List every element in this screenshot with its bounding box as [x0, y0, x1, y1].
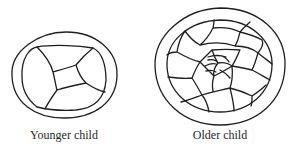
drawings-figure [0, 0, 292, 149]
younger-child-caption: Younger child [4, 128, 124, 143]
younger-cell-lines [37, 47, 105, 109]
younger-inner-ring [22, 45, 106, 110]
older-outer-ring [155, 8, 285, 125]
figure-canvas: Younger child Older child [0, 0, 292, 149]
older-child-drawing [155, 8, 285, 125]
older-child-caption: Older child [160, 128, 280, 143]
younger-child-drawing [12, 32, 117, 118]
